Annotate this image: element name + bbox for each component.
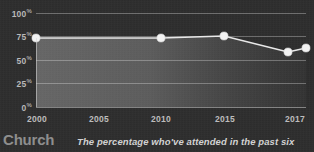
gridline-0 xyxy=(36,107,306,108)
x-tick-label-2000: 2000 xyxy=(27,114,47,124)
chart-footer: Church The percentage who've attended in… xyxy=(0,130,314,152)
y-tick-label-100: 100% xyxy=(0,8,32,19)
y-tick-label-25: 25% xyxy=(0,78,32,89)
chart-screenshot: 100% 75% 50% 25% 0% 2000 2005 2010 2015 … xyxy=(0,0,314,152)
x-tick-label-2017: 2017 xyxy=(285,114,305,124)
category-title: Church xyxy=(3,131,54,149)
plot-area xyxy=(36,13,306,107)
data-point-2017 xyxy=(302,44,310,52)
data-point-2010 xyxy=(220,32,228,40)
x-tick-label-2010: 2010 xyxy=(151,114,171,124)
x-tick-label-2005: 2005 xyxy=(89,114,109,124)
y-tick-label-0: 0% xyxy=(0,102,32,113)
series-church-attendance xyxy=(36,13,306,107)
y-tick-label-75: 75% xyxy=(0,31,32,42)
y-tick-label-50: 50% xyxy=(0,55,32,66)
chart-caption: The percentage who've attended in the pa… xyxy=(77,135,312,148)
data-point-2015 xyxy=(284,48,292,56)
y-axis-spine xyxy=(36,38,37,107)
line-area-chart: 100% 75% 50% 25% 0% 2000 2005 2010 2015 … xyxy=(0,0,314,130)
data-point-2005 xyxy=(157,34,165,42)
x-tick-label-2015: 2015 xyxy=(215,114,235,124)
